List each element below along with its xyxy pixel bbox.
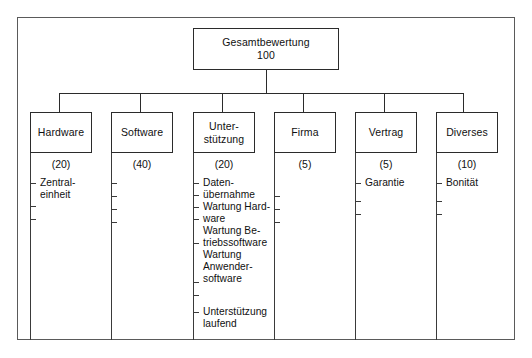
spine-hardware bbox=[30, 153, 31, 340]
node-hardware[interactable]: Hardware bbox=[30, 112, 92, 153]
tick-unterstuetzung-6 bbox=[194, 282, 199, 283]
detail-unterstuetzung-3: Wartung Be- triebssoftware bbox=[203, 225, 295, 249]
root-label: Gesamtbewertung bbox=[222, 36, 309, 49]
spine-vertrag bbox=[355, 153, 356, 340]
connector-drop-diverses bbox=[463, 93, 464, 112]
tick-unterstuetzung-3 bbox=[194, 207, 199, 208]
tick-unterstuetzung-7 bbox=[194, 295, 199, 296]
node-unterstuetzung[interactable]: Unter- stützung bbox=[193, 112, 255, 153]
node-diverses[interactable]: Diverses bbox=[436, 112, 498, 153]
weight-firma: (5) bbox=[274, 158, 336, 170]
tick-unterstuetzung-5 bbox=[194, 243, 199, 244]
detail-hardware-1: Zentral- einheit bbox=[40, 177, 110, 201]
detail-unterstuetzung-2: Wartung Hard- ware bbox=[203, 201, 295, 225]
detail-unterstuetzung-5: Unterstützung laufend bbox=[203, 306, 295, 330]
tick-software-4 bbox=[112, 222, 117, 223]
weight-unterstuetzung: (20) bbox=[193, 158, 255, 170]
tick-unterstuetzung-4 bbox=[194, 219, 199, 220]
tick-hardware-2 bbox=[31, 206, 36, 207]
detail-diverses-1: Bonität bbox=[446, 177, 526, 189]
detail-vertrag-1: Garantie bbox=[365, 177, 445, 189]
node-vertrag-label: Vertrag bbox=[369, 126, 404, 139]
tick-unterstuetzung-2 bbox=[194, 195, 199, 196]
connector-bus-horizontal bbox=[59, 93, 463, 94]
tick-unterstuetzung-8 bbox=[194, 312, 199, 313]
node-hardware-label: Hardware bbox=[38, 126, 84, 139]
tick-software-3 bbox=[112, 209, 117, 210]
tick-hardware-1 bbox=[31, 183, 36, 184]
weight-vertrag: (5) bbox=[355, 158, 417, 170]
connector-drop-unterstuetzung bbox=[222, 93, 223, 112]
connector-drop-firma bbox=[303, 93, 304, 112]
root-value: 100 bbox=[257, 49, 275, 62]
node-gesamtbewertung[interactable]: Gesamtbewertung 100 bbox=[193, 28, 339, 70]
tick-software-2 bbox=[112, 196, 117, 197]
tick-diverses-3 bbox=[437, 214, 442, 215]
connector-drop-hardware bbox=[59, 93, 60, 112]
tick-vertrag-3 bbox=[356, 214, 361, 215]
tick-unterstuetzung-1 bbox=[194, 183, 199, 184]
weight-hardware: (20) bbox=[30, 158, 92, 170]
node-diverses-label: Diverses bbox=[446, 126, 488, 139]
node-firma-label: Firma bbox=[291, 126, 318, 139]
connector-drop-vertrag bbox=[384, 93, 385, 112]
tick-vertrag-2 bbox=[356, 201, 361, 202]
weight-software: (40) bbox=[111, 158, 173, 170]
tick-diverses-2 bbox=[437, 201, 442, 202]
node-firma[interactable]: Firma bbox=[274, 112, 336, 153]
connector-drop-software bbox=[140, 93, 141, 112]
connector-root-down bbox=[266, 70, 267, 93]
node-unterstuetzung-label: Unter- bbox=[209, 120, 239, 133]
node-vertrag[interactable]: Vertrag bbox=[355, 112, 417, 153]
weight-diverses: (10) bbox=[436, 158, 498, 170]
spine-software bbox=[111, 153, 112, 340]
detail-unterstuetzung-4: Wartung Anwender- software bbox=[203, 249, 295, 285]
node-software[interactable]: Software bbox=[111, 112, 173, 153]
tick-software-1 bbox=[112, 183, 117, 184]
tick-vertrag-1 bbox=[356, 183, 361, 184]
diagram-canvas: Gesamtbewertung 100 Hardware Software Un… bbox=[0, 0, 532, 358]
node-software-label: Software bbox=[121, 126, 163, 139]
tick-hardware-3 bbox=[31, 219, 36, 220]
node-unterstuetzung-label-line2: stützung bbox=[204, 133, 245, 146]
detail-unterstuetzung-1: Daten- übernahme bbox=[203, 177, 295, 201]
